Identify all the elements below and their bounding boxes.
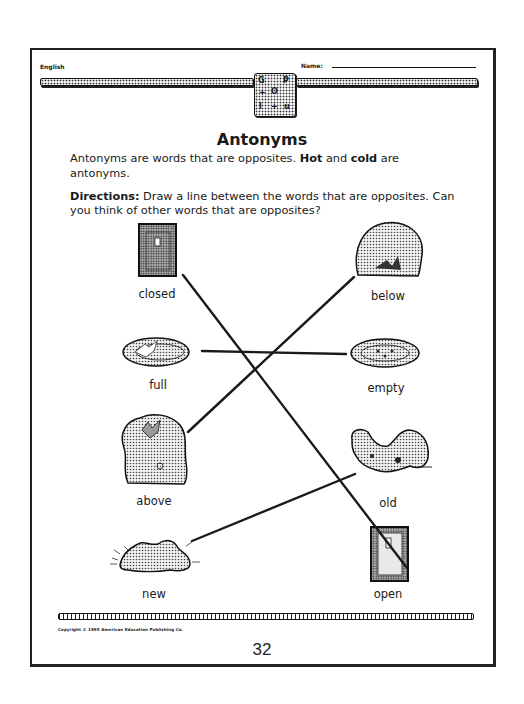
pictures-and-lines [0,0,524,704]
full-plate-icon [123,338,189,366]
match-line-new-old [192,474,355,541]
word-closed[interactable]: closed [117,287,197,301]
copyright-text: Copyright © 1995 American Education Publ… [58,627,183,632]
closed-door-icon [139,224,176,276]
word-empty[interactable]: empty [346,381,426,395]
match-line-closed-open [183,275,407,568]
page-number: 32 [0,640,524,660]
bird-below-bush-icon [356,223,422,276]
word-full[interactable]: full [118,378,198,392]
word-new[interactable]: new [114,587,194,601]
footer-rail [58,613,474,620]
empty-plate-icon [351,339,419,367]
bird-above-bush-icon [122,415,187,484]
word-above[interactable]: above [114,494,194,508]
open-door-icon [371,527,408,581]
word-open[interactable]: open [348,587,428,601]
new-shoes-icon [110,541,200,572]
word-below[interactable]: below [348,289,428,303]
old-shoes-icon [352,430,432,472]
word-old[interactable]: old [348,496,428,510]
matching-lines [183,275,407,568]
